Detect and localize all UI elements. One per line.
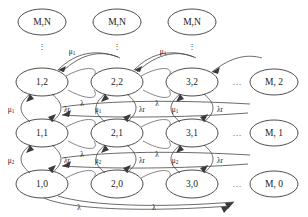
node-3-1[interactable]: 3,1 <box>166 119 218 147</box>
row-2-nodes: 1,2 2,2 3,2 … M, 2 <box>16 68 298 96</box>
arc-21-31-top <box>141 120 170 128</box>
arc-11-21-bottom <box>68 141 95 149</box>
rate-label-lambda-r: λr <box>217 105 224 114</box>
state-transition-diagram: M,N M,N M,N ⋮ ⋮ ⋮ <box>0 0 308 217</box>
node-label: M,N <box>33 17 51 27</box>
vertical-ellipsis-group: ⋮ ⋮ ⋮ <box>38 42 196 51</box>
edge-mu1-top-far-right <box>212 56 262 72</box>
node-top-1[interactable]: M,N <box>18 9 66 35</box>
node-top-3[interactable]: M,N <box>168 9 216 35</box>
rate-label-lambda-r: λr <box>64 156 71 165</box>
node-M-1[interactable]: M, 1 <box>250 120 298 146</box>
arc-22-32-top <box>141 69 170 77</box>
node-label: 2,0 <box>111 179 123 189</box>
row-1-nodes: 1,1 2,1 3,1 … M, 1 <box>16 119 298 147</box>
arc-21-31-bottom <box>143 141 170 149</box>
vertical-ellipsis-icon: ⋮ <box>113 42 121 51</box>
node-3-0[interactable]: 3,0 <box>166 170 218 198</box>
diagram-canvas: M,N M,N M,N ⋮ ⋮ ⋮ <box>0 0 308 217</box>
top-row-nodes: M,N M,N M,N <box>18 9 216 35</box>
rate-label-mu2: μ2 <box>172 156 179 165</box>
node-label: 3,0 <box>186 179 198 189</box>
rate-label-mu1: μ1 <box>160 47 167 56</box>
node-label: 3,2 <box>186 77 198 87</box>
arrowhead <box>221 206 230 213</box>
rate-label-lambda: λ <box>80 99 84 108</box>
vertical-ellipsis-icon: ⋮ <box>38 42 46 51</box>
edge-lambda-bottom-right-2 <box>58 196 234 205</box>
node-label: 3,1 <box>186 128 198 138</box>
arc-20-30-top <box>141 171 170 179</box>
bottom-lambda-arcs <box>44 196 234 213</box>
node-label: 2,2 <box>111 77 123 87</box>
vertical-ellipsis-icon: ⋮ <box>188 42 196 51</box>
node-label: 1,0 <box>36 179 48 189</box>
node-label: 1,2 <box>36 77 48 87</box>
node-top-2[interactable]: M,N <box>93 9 141 35</box>
rate-label-lambda-r: λr <box>217 156 224 165</box>
node-2-2[interactable]: 2,2 <box>91 68 143 96</box>
horizontal-ellipsis-icon: … <box>233 77 242 87</box>
arc-10-20-top <box>66 171 95 179</box>
rate-label-lambda: λ <box>77 203 81 212</box>
node-1-0[interactable]: 1,0 <box>16 170 68 198</box>
rate-label-mu2: μ2 <box>95 156 102 165</box>
node-label: 1,1 <box>36 128 48 138</box>
node-label: M,N <box>108 17 126 27</box>
rate-label-mu1: μ1 <box>95 105 102 114</box>
rate-label-lambda-r: λr <box>139 156 146 165</box>
arc-12-22-bottom <box>68 90 95 98</box>
horizontal-ellipsis-icon: … <box>233 179 242 189</box>
rate-label-mu1: μ1 <box>69 47 76 56</box>
rate-label-lambda-r: λr <box>139 105 146 114</box>
node-label: M, 1 <box>265 128 283 138</box>
horizontal-ellipsis-icon: … <box>233 128 242 138</box>
rate-label-lambda: λ <box>155 150 159 159</box>
node-3-2[interactable]: 3,2 <box>166 68 218 96</box>
arrowhead <box>212 67 220 74</box>
arc-22-32-bottom <box>143 90 170 98</box>
node-1-1[interactable]: 1,1 <box>16 119 68 147</box>
row-0-nodes: 1,0 2,0 3,0 … M, 0 <box>16 170 298 198</box>
top-mu1-arcs <box>58 53 262 74</box>
arc-12-22-top <box>66 69 95 77</box>
rate-label-lambda: λ <box>152 203 156 212</box>
node-label: M,N <box>183 17 201 27</box>
node-M-0[interactable]: M, 0 <box>250 171 298 197</box>
node-label: M, 2 <box>265 77 283 87</box>
node-label: 2,1 <box>111 128 123 138</box>
node-1-2[interactable]: 1,2 <box>16 68 68 96</box>
rate-label-lambda: λ <box>155 99 159 108</box>
node-2-0[interactable]: 2,0 <box>91 170 143 198</box>
rate-label-mu1: μ1 <box>172 105 179 114</box>
rate-label-lambda-r: λr <box>64 105 71 114</box>
rate-label-mu1: μ1 <box>8 105 15 114</box>
node-label: M, 0 <box>265 179 283 189</box>
arc-11-21-top <box>66 120 95 128</box>
node-2-1[interactable]: 2,1 <box>91 119 143 147</box>
rate-label-mu2: μ2 <box>8 156 15 165</box>
node-M-2[interactable]: M, 2 <box>250 69 298 95</box>
rate-label-lambda: λ <box>80 150 84 159</box>
